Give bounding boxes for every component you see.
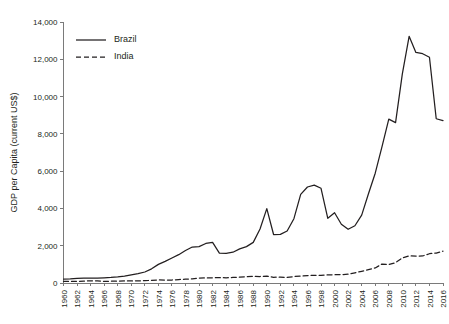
- x-tick-label: 1992: [277, 289, 286, 307]
- chart-legend: BrazilIndia: [76, 34, 137, 61]
- gdp-per-capita-line-chart: 02,0004,0006,0008,00010,00012,00014,000 …: [0, 0, 449, 324]
- x-tick-label: 2004: [358, 289, 367, 307]
- legend-label-brazil: Brazil: [114, 34, 137, 44]
- y-tick-label: 14,000: [33, 18, 58, 27]
- chart-canvas: 02,0004,0006,0008,00010,00012,00014,000 …: [0, 0, 449, 324]
- x-tick-label: 1990: [263, 289, 272, 307]
- x-tick-label: 1996: [304, 289, 313, 307]
- x-tick-label: 2012: [412, 289, 421, 307]
- x-tick-label: 1972: [141, 289, 150, 307]
- x-tick-label: 2000: [331, 289, 340, 307]
- x-tick-label: 2014: [426, 289, 435, 307]
- x-axis-ticks: 1960196219641966196819701972197419761978…: [60, 283, 449, 308]
- x-tick-label: 2006: [371, 289, 380, 307]
- x-tick-label: 2002: [344, 289, 353, 307]
- y-tick-label: 10,000: [33, 93, 58, 102]
- x-tick-label: 1964: [87, 289, 96, 307]
- x-tick-label: 1984: [222, 289, 231, 307]
- x-tick-label: 1994: [290, 289, 299, 307]
- x-tick-label: 1960: [60, 289, 69, 307]
- x-tick-label: 1974: [155, 289, 164, 307]
- y-tick-label: 8,000: [37, 130, 58, 139]
- x-tick-label: 2010: [399, 289, 408, 307]
- y-tick-label: 0: [53, 279, 58, 288]
- plot-area: 02,0004,0006,0008,00010,00012,00014,000 …: [9, 18, 448, 308]
- legend-label-india: India: [114, 51, 134, 61]
- y-axis-ticks: 02,0004,0006,0008,00010,00012,00014,000: [33, 18, 63, 288]
- data-series: [64, 36, 444, 281]
- y-axis-title: GDP per Capita (current US$): [9, 93, 19, 213]
- x-tick-label: 1988: [249, 289, 258, 307]
- y-tick-label: 2,000: [37, 242, 58, 251]
- x-tick-label: 1970: [127, 289, 136, 307]
- x-tick-label: 1966: [100, 289, 109, 307]
- x-tick-label: 2008: [385, 289, 394, 307]
- x-tick-label: 2016: [439, 289, 448, 307]
- series-line-brazil: [64, 36, 444, 279]
- x-tick-label: 1982: [209, 289, 218, 307]
- x-tick-label: 1976: [168, 289, 177, 307]
- y-tick-label: 12,000: [33, 55, 58, 64]
- y-tick-label: 6,000: [37, 167, 58, 176]
- x-tick-label: 1980: [195, 289, 204, 307]
- y-tick-label: 4,000: [37, 204, 58, 213]
- x-tick-label: 1968: [114, 289, 123, 307]
- x-tick-label: 1986: [236, 289, 245, 307]
- x-tick-label: 1962: [73, 289, 82, 307]
- x-tick-label: 1978: [182, 289, 191, 307]
- x-tick-label: 1998: [317, 289, 326, 307]
